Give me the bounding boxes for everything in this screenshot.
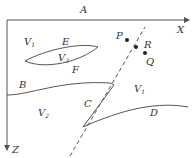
label-c: C [84, 98, 92, 109]
label-f: F [71, 64, 80, 75]
label-e: E [61, 36, 70, 47]
label-v2: V2 [38, 107, 49, 119]
label-v1-right: V1 [134, 83, 145, 95]
label-p: P [115, 30, 123, 41]
geological-section-diagram: A X Z V1 V3 V1 V2 E F B C D P R Q [0, 0, 196, 158]
point-r [134, 45, 138, 49]
label-z: Z [11, 144, 20, 155]
label-b: B [18, 79, 26, 90]
point-q [143, 51, 147, 55]
label-x: X [176, 24, 185, 35]
label-v1-upper: V1 [24, 36, 35, 48]
label-d: D [149, 107, 158, 118]
label-v3: V3 [58, 52, 69, 64]
label-r: R [143, 39, 152, 50]
point-p [125, 38, 129, 42]
label-a: A [79, 4, 87, 15]
boundary-d [83, 105, 188, 127]
label-q: Q [146, 56, 154, 67]
